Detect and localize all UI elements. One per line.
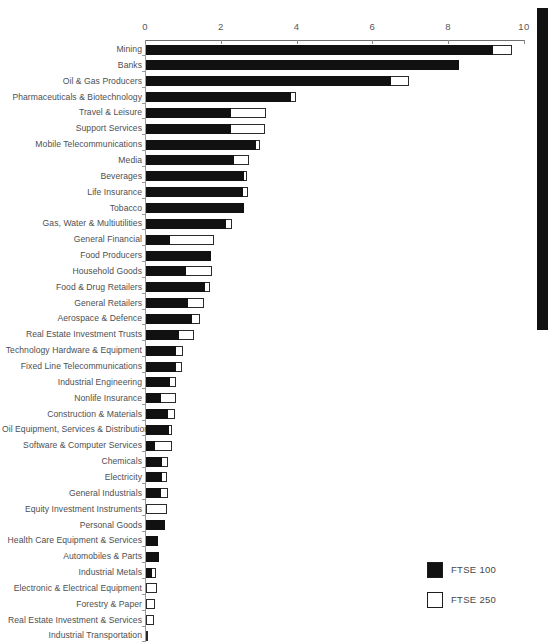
x-axis-line [145,40,524,41]
category-label: Electricity [2,470,142,485]
bar-segment-ftse100 [146,187,243,197]
y-axis-tick [142,594,146,595]
bar-row: General Industrials [0,486,548,501]
bar-segment-ftse100 [146,203,244,213]
bar-segment-ftse100 [146,282,205,292]
category-label: Industrial Transportation [2,628,142,643]
y-axis-tick [142,340,146,341]
bar-segment-ftse100 [146,108,231,118]
bar-row: Media [0,153,548,168]
bar-segment-ftse100 [146,362,176,372]
bar-row: Aerospace & Defence [0,311,548,326]
bar-segment-ftse100 [146,298,188,308]
y-axis-tick [142,324,146,325]
bar-segment-ftse250 [146,631,148,641]
y-axis-tick [142,245,146,246]
category-label: General Financial [2,232,142,247]
category-label: Media [2,153,142,168]
bar-segment-ftse100 [146,76,391,86]
bar-row: Food Producers [0,248,548,263]
y-axis-tick [142,214,146,215]
bar-segment-ftse100 [146,330,179,340]
y-axis-tick [142,546,146,547]
y-axis-tick [142,610,146,611]
category-label: Real Estate Investment Trusts [2,327,142,342]
category-label: Industrial Metals [2,565,142,580]
y-axis-tick [142,435,146,436]
category-label: Construction & Materials [2,407,142,422]
bar-segment-ftse100 [146,171,244,181]
category-label: Personal Goods [2,518,142,533]
bar-row: Personal Goods [0,518,548,533]
bar-segment-ftse100 [146,219,226,229]
legend-label: FTSE 100 [451,563,496,577]
category-label: Fixed Line Telecommunications [2,359,142,374]
bar-row: Beverages [0,169,548,184]
bar-row: Industrial Transportation [0,628,548,643]
y-axis-tick [142,293,146,294]
bar-row: Fixed Line Telecommunications [0,359,548,374]
bar-row: Support Services [0,121,548,136]
y-axis-tick [142,451,146,452]
y-axis-tick [142,118,146,119]
y-axis-tick [142,55,146,56]
y-axis-tick [142,229,146,230]
category-label: Beverages [2,169,142,184]
category-label: Aerospace & Defence [2,311,142,326]
category-label: Oil Equipment, Services & Distribution [2,422,142,437]
category-label: Food & Drug Retailers [2,280,142,295]
y-axis-tick [142,467,146,468]
category-label: Health Care Equipment & Services [2,533,142,548]
bar-row: Banks [0,58,548,73]
category-label: Automobiles & Parts [2,549,142,564]
bar-row: Oil & Gas Producers [0,74,548,89]
category-label: Equity Investment Instruments [2,502,142,517]
y-axis-tick [142,356,146,357]
legend-swatch-icon [427,562,443,578]
y-axis-tick [142,261,146,262]
y-axis-tick [142,388,146,389]
y-axis-tick [142,420,146,421]
bar-segment-ftse100 [146,393,161,403]
category-label: Oil & Gas Producers [2,74,142,89]
bar-row: Nonlife Insurance [0,391,548,406]
legend-item-ftse100: FTSE 100 [427,560,542,590]
y-axis-tick [142,71,146,72]
category-label: Software & Computer Services [2,438,142,453]
bar-row: Chemicals [0,454,548,469]
bar-segment-ftse100 [146,251,211,261]
y-axis-tick [142,277,146,278]
bar-row: Life Insurance [0,185,548,200]
y-axis-tick [142,198,146,199]
bar-segment-ftse100 [146,346,176,356]
y-axis-tick [142,515,146,516]
category-label: Industrial Engineering [2,375,142,390]
y-axis-tick [142,372,146,373]
y-axis-tick [142,641,146,642]
y-axis-tick [142,499,146,500]
x-axis-tick-label: 10 [518,21,529,32]
bar-segment-ftse100 [146,45,493,55]
category-label: Food Producers [2,248,142,263]
category-label: Mobile Telecommunications [2,137,142,152]
bar-segment-ftse100 [146,425,169,435]
bar-row: General Financial [0,232,548,247]
category-label: Technology Hardware & Equipment [2,343,142,358]
y-axis-tick [142,134,146,135]
x-axis-tick-label: 6 [370,21,376,32]
category-label: Mining [2,42,142,57]
bar-segment-ftse100 [146,520,165,530]
bar-segment-ftse100 [146,488,161,498]
bar-row: Pharmaceuticals & Biotechnology [0,90,548,105]
legend-swatch-icon [427,592,443,608]
y-axis-tick [142,562,146,563]
category-label: Support Services [2,121,142,136]
y-axis-tick [142,531,146,532]
bar-row: Industrial Engineering [0,375,548,390]
bar-row: Technology Hardware & Equipment [0,343,548,358]
category-label: Banks [2,58,142,73]
bar-row: Electricity [0,470,548,485]
category-label: Pharmaceuticals & Biotechnology [2,90,142,105]
bar-segment-ftse100 [146,409,168,419]
bar-row: Health Care Equipment & Services [0,533,548,548]
